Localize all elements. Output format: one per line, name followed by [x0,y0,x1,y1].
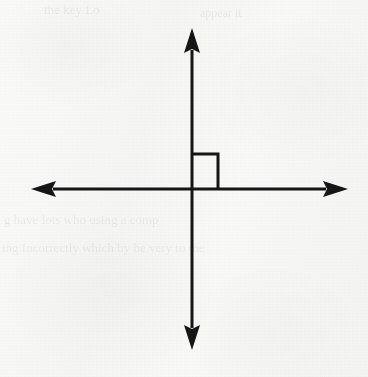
left-arrowhead-icon [31,181,56,197]
down-arrowhead-icon [184,325,200,350]
right-arrowhead-icon [323,181,348,197]
perpendicular-lines-figure [0,0,368,377]
up-arrowhead-icon [184,28,200,53]
right-angle-square [192,154,218,189]
scanned-page: the key Lo appear it g have lots who usi… [0,0,368,377]
